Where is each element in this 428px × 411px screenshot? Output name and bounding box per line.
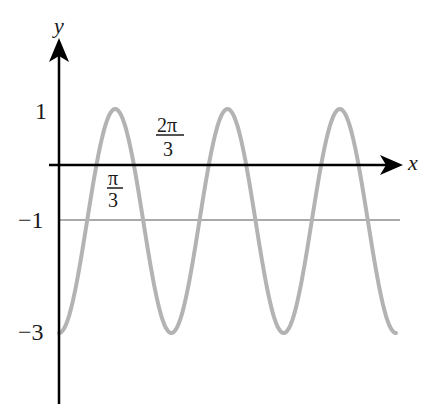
y-tick-1: 1 — [35, 98, 47, 124]
pi-over-3-numerator: π — [108, 167, 118, 189]
y-tick-minus1: −1 — [18, 207, 44, 233]
two-pi-over-3-numerator: 2π — [157, 114, 177, 136]
y-tick-minus3: −3 — [18, 319, 44, 345]
y-axis-label: y — [52, 13, 64, 38]
two-pi-over-3-denominator: 3 — [163, 138, 173, 160]
x-axis-label: x — [407, 150, 418, 175]
chart-canvas: y x 1 −1 −3 π 3 2π 3 — [0, 0, 428, 411]
pi-over-3-denominator: 3 — [108, 189, 118, 211]
